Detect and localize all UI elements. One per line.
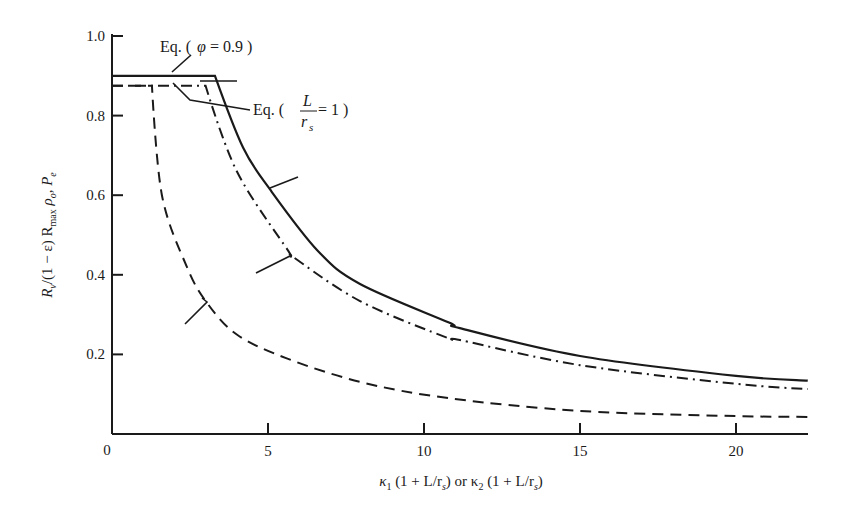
y-tick-label: 0.4 bbox=[86, 267, 105, 283]
svg-text:L: L bbox=[302, 92, 312, 109]
y-tick-label: 1.0 bbox=[86, 28, 105, 44]
x-tick-labels: 5101520 bbox=[264, 443, 743, 459]
svg-text:s: s bbox=[309, 121, 313, 133]
svg-text:= 1 ): = 1 ) bbox=[318, 101, 348, 119]
x-axis-label: κ1 (1 + L/rs) or κ2 (1 + L/rs) bbox=[379, 473, 543, 492]
x-tick-label: 15 bbox=[573, 443, 588, 459]
y-tick-label: 0.8 bbox=[86, 108, 105, 124]
y-tick-labels: 0.20.40.60.81.0 bbox=[86, 28, 105, 362]
leader-phi bbox=[172, 55, 191, 72]
axes bbox=[112, 34, 808, 434]
origin-label: 0 bbox=[103, 442, 111, 458]
x-tick-label: 5 bbox=[264, 443, 272, 459]
x-tick-label: 10 bbox=[417, 443, 432, 459]
series-dashed-line bbox=[112, 86, 808, 417]
y-tick-label: 0.6 bbox=[86, 187, 105, 203]
x-ticks bbox=[268, 423, 736, 434]
annotation-l-rs: Eq. ( L r s = 1 ) bbox=[253, 92, 348, 133]
series-group bbox=[112, 76, 808, 417]
y-ticks bbox=[112, 36, 123, 354]
leader-lines bbox=[172, 55, 298, 324]
svg-text:Eq. (: Eq. ( bbox=[253, 101, 284, 119]
leader-dashed bbox=[185, 298, 207, 324]
leader-l-rs bbox=[173, 83, 250, 110]
leader-solid bbox=[270, 177, 298, 188]
y-tick-label: 0.2 bbox=[86, 346, 105, 362]
series-dash-dot-line bbox=[112, 86, 808, 389]
chart: 0.20.40.60.81.0 5101520 0 Eq. (φ = 0.9 )… bbox=[0, 0, 848, 519]
y-axis-label: Rv/(1 − ε) Rmax ρo, Pe bbox=[39, 172, 58, 299]
annotation-phi: Eq. (φ = 0.9 ) bbox=[160, 38, 252, 56]
leader-dashdot bbox=[256, 255, 292, 273]
svg-text:r: r bbox=[301, 113, 308, 130]
x-tick-label: 20 bbox=[729, 443, 744, 459]
